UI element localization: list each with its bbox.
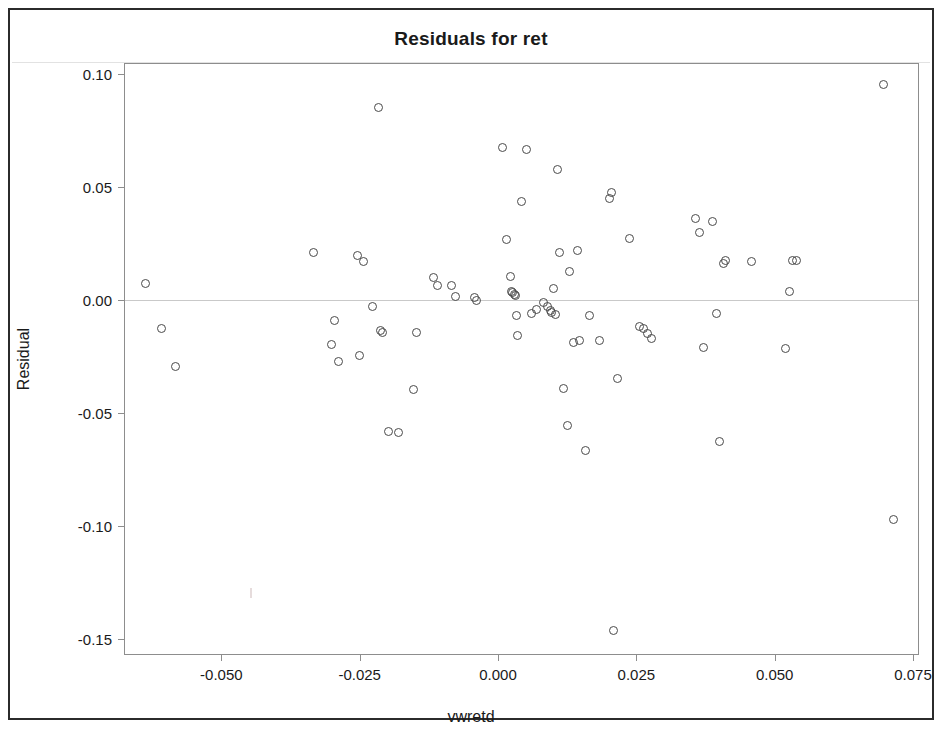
zero-reference-line xyxy=(125,300,918,301)
scatter-point xyxy=(532,305,541,314)
scatter-point xyxy=(472,296,481,305)
scatter-point xyxy=(889,515,898,524)
scatter-point xyxy=(585,311,594,320)
scatter-plot-area: 0.100.050.00-0.05-0.10-0.15 -0.050-0.025… xyxy=(124,63,919,655)
scatter-point xyxy=(715,437,724,446)
y-tick-label: -0.05 xyxy=(78,405,112,422)
scatter-point xyxy=(368,302,377,311)
scatter-point xyxy=(433,281,442,290)
y-tick-label: -0.10 xyxy=(78,518,112,535)
y-tick-mark xyxy=(118,639,125,640)
scatter-point xyxy=(609,626,618,635)
scatter-point xyxy=(374,103,383,112)
x-tick-label: -0.050 xyxy=(200,666,243,683)
scatter-point xyxy=(334,357,343,366)
x-tick-mark xyxy=(360,654,361,661)
y-axis-title: Residual xyxy=(15,328,33,390)
x-tick-mark xyxy=(913,654,914,661)
scatter-point xyxy=(309,248,318,257)
x-tick-mark xyxy=(636,654,637,661)
y-tick-mark xyxy=(118,526,125,527)
scatter-point xyxy=(555,248,564,257)
y-tick-mark xyxy=(118,300,125,301)
x-axis-title: vwretd xyxy=(0,708,942,726)
scatter-point xyxy=(502,235,511,244)
scatter-point xyxy=(563,421,572,430)
scatter-point xyxy=(141,279,150,288)
x-tick-label: 0.025 xyxy=(618,666,656,683)
scatter-point xyxy=(355,351,364,360)
scatter-point xyxy=(708,217,717,226)
scatter-point xyxy=(607,188,616,197)
x-tick-label: -0.025 xyxy=(338,666,381,683)
y-tick-label: 0.00 xyxy=(83,292,112,309)
scatter-point xyxy=(695,228,704,237)
scatter-point xyxy=(409,385,418,394)
scatter-point xyxy=(384,427,393,436)
scatter-point xyxy=(712,309,721,318)
scatter-point xyxy=(394,428,403,437)
scatter-point xyxy=(513,331,522,340)
scatter-point xyxy=(792,256,801,265)
screenshot-page: Residuals for ret Residual vwretd 0.100.… xyxy=(0,0,942,740)
scatter-point xyxy=(785,287,794,296)
x-tick-mark xyxy=(775,654,776,661)
x-tick-label: 0.075 xyxy=(894,666,932,683)
scatter-point xyxy=(551,310,560,319)
scatter-point xyxy=(625,234,634,243)
scatter-point xyxy=(512,311,521,320)
y-tick-mark xyxy=(118,74,125,75)
scatter-point xyxy=(412,328,421,337)
scatter-point xyxy=(511,291,520,300)
scatter-point xyxy=(595,336,604,345)
scatter-point xyxy=(447,281,456,290)
scatter-point xyxy=(359,257,368,266)
scatter-point xyxy=(330,316,339,325)
scatter-point xyxy=(581,446,590,455)
scatter-point xyxy=(553,165,562,174)
x-tick-label: 0.000 xyxy=(479,666,517,683)
scatter-point xyxy=(157,324,166,333)
scatter-point xyxy=(559,384,568,393)
scatter-point xyxy=(613,374,622,383)
scatter-point xyxy=(506,272,515,281)
x-tick-label: 0.050 xyxy=(756,666,794,683)
scatter-point xyxy=(378,328,387,337)
y-tick-label: 0.10 xyxy=(83,66,112,83)
scatter-point xyxy=(522,145,531,154)
scatter-point xyxy=(573,246,582,255)
scatter-point xyxy=(699,343,708,352)
scatter-point xyxy=(575,336,584,345)
scatter-point xyxy=(498,143,507,152)
x-tick-mark xyxy=(221,654,222,661)
scatter-point xyxy=(327,340,336,349)
y-tick-mark xyxy=(118,187,125,188)
scatter-point xyxy=(171,362,180,371)
y-tick-label: -0.15 xyxy=(78,631,112,648)
x-tick-mark xyxy=(498,654,499,661)
scan-artifact xyxy=(250,588,252,598)
scatter-point xyxy=(781,344,790,353)
scatter-point xyxy=(747,257,756,266)
scatter-point xyxy=(721,256,730,265)
scatter-point xyxy=(549,284,558,293)
scatter-point xyxy=(879,80,888,89)
scatter-point xyxy=(517,197,526,206)
page-title: Residuals for ret xyxy=(0,28,942,50)
scatter-point xyxy=(565,267,574,276)
scatter-point xyxy=(647,334,656,343)
y-tick-mark xyxy=(118,413,125,414)
y-tick-label: 0.05 xyxy=(83,179,112,196)
scatter-point xyxy=(691,214,700,223)
